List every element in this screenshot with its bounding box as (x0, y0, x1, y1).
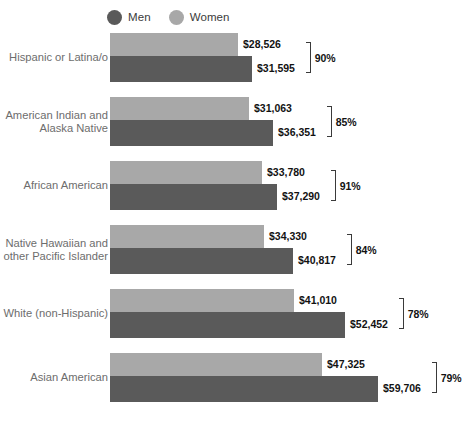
bar-group: Asian American$47,325$59,70679% (0, 353, 467, 402)
bar-value-women: $47,325 (327, 358, 365, 370)
category-label: Hispanic or Latina/o (0, 51, 108, 64)
bar-value-women: $41,010 (299, 294, 337, 306)
ratio-percent-label: 85% (336, 116, 357, 128)
bar-women (110, 97, 249, 120)
bar-men (110, 56, 252, 82)
bar-men (110, 376, 378, 402)
bar-women (110, 353, 322, 376)
category-label: Asian American (0, 371, 108, 384)
bar-women (110, 289, 294, 312)
bar-value-men: $52,452 (350, 318, 388, 330)
category-label: Native Hawaiian and other Pacific Island… (0, 237, 108, 263)
bar-value-men: $59,706 (383, 382, 421, 394)
bar-value-men: $31,595 (257, 62, 295, 74)
ratio-percent-label: 91% (340, 180, 361, 192)
ratio-percent-label: 84% (356, 244, 377, 256)
bar-men (110, 312, 345, 338)
bar-men (110, 120, 273, 146)
bar-group: American Indian and Alaska Native$31,063… (0, 97, 467, 146)
bar-value-women: $28,526 (243, 38, 281, 50)
bar-value-men: $36,351 (278, 126, 316, 138)
bar-women (110, 225, 264, 248)
ratio-bracket-icon (306, 42, 311, 73)
ratio-bracket-icon (399, 298, 404, 329)
ratio-bracket-icon (347, 234, 352, 265)
ratio-bracket-icon (327, 106, 332, 137)
bar-group: Hispanic or Latina/o$28,526$31,59590% (0, 33, 467, 82)
ratio-percent-label: 90% (315, 52, 336, 64)
ratio-annotation: 85% (327, 106, 357, 137)
bar-men (110, 248, 293, 274)
ratio-annotation: 90% (306, 42, 336, 73)
bar-value-women: $31,063 (254, 102, 292, 114)
ratio-annotation: 79% (432, 362, 462, 393)
category-label: White (non-Hispanic) (0, 307, 108, 320)
ratio-bracket-icon (432, 362, 437, 393)
earnings-by-race-gender-bar-chart: Men Women Hispanic or Latina/o$28,526$31… (0, 0, 467, 421)
ratio-annotation: 84% (347, 234, 377, 265)
bar-group: African American$33,780$37,29091% (0, 161, 467, 210)
bar-value-women: $33,780 (267, 166, 305, 178)
category-label: American Indian and Alaska Native (0, 109, 108, 135)
ratio-percent-label: 78% (408, 308, 429, 320)
bar-value-men: $40,817 (298, 254, 336, 266)
bar-group: White (non-Hispanic)$41,010$52,45278% (0, 289, 467, 338)
bar-men (110, 184, 277, 210)
bar-group: Native Hawaiian and other Pacific Island… (0, 225, 467, 274)
bar-value-women: $34,330 (269, 230, 307, 242)
bar-women (110, 161, 262, 184)
bar-women (110, 33, 238, 56)
ratio-annotation: 78% (399, 298, 429, 329)
ratio-bracket-icon (331, 170, 336, 201)
ratio-percent-label: 79% (441, 372, 462, 384)
ratio-annotation: 91% (331, 170, 361, 201)
bar-value-men: $37,290 (282, 190, 320, 202)
category-label: African American (0, 179, 108, 192)
plot-area: Hispanic or Latina/o$28,526$31,59590%Ame… (0, 0, 467, 421)
